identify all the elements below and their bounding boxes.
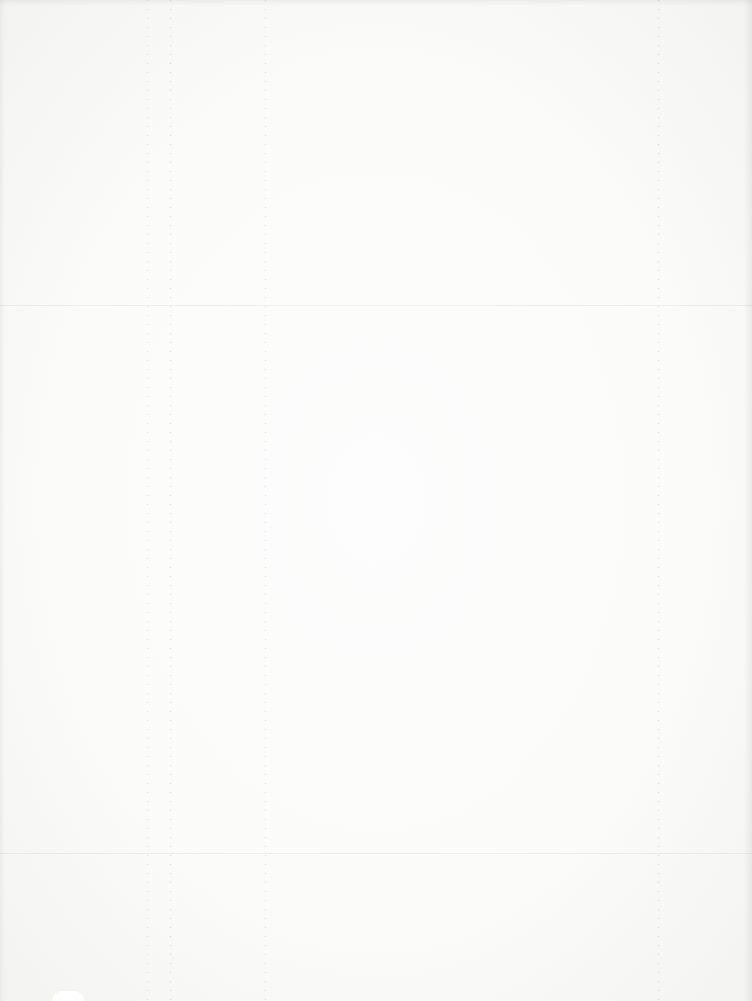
fold-line-upper	[0, 305, 752, 306]
bleed-through-line	[147, 0, 148, 1001]
scan-edge-shadow-top	[0, 0, 752, 6]
bleed-through-line	[170, 0, 171, 1001]
blank-document-page	[0, 0, 752, 1001]
bleed-through-line	[658, 0, 659, 1001]
bleed-through-line	[265, 0, 266, 1001]
scan-edge-shadow-right	[744, 0, 752, 1001]
fold-line-lower	[0, 853, 752, 854]
scan-artifact	[52, 991, 84, 1001]
scan-edge-shadow-left	[0, 0, 5, 1001]
